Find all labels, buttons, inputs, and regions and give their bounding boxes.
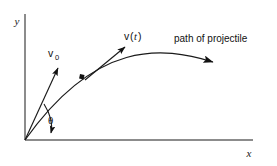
projectile-motion-figure: y x v 0 v ( t ) θ (0, 0, 277, 166)
x-axis-label: x (246, 147, 252, 159)
projectile-path-group (25, 53, 213, 140)
v0-label-v: v (48, 47, 54, 59)
vt-arrow-line (85, 47, 125, 80)
theta-label: θ (48, 114, 53, 126)
v0-arrow-line (25, 68, 58, 140)
instantaneous-velocity-vector (85, 47, 125, 80)
y-axis-label: y (14, 15, 20, 27)
vt-label-group: v ( t ) (124, 30, 142, 42)
trajectory-point-marker (79, 74, 84, 79)
projectile-path-curve (25, 53, 213, 140)
diagram-canvas: y x v 0 v ( t ) θ (0, 0, 277, 166)
vt-label-close-paren: ) (138, 30, 142, 42)
v0-label-subscript: 0 (55, 53, 59, 62)
initial-velocity-vector (25, 68, 58, 140)
v0-label-group: v 0 (48, 47, 59, 62)
path-of-projectile-label: path of projectile (174, 33, 248, 44)
